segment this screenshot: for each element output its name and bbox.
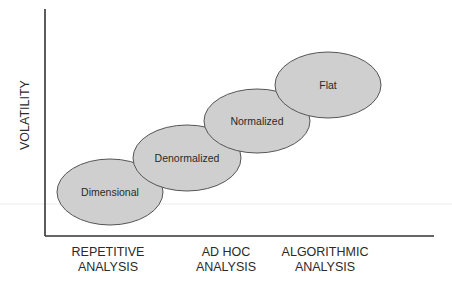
node-label: Dimensional (81, 186, 139, 198)
x-label-algorithmic: ALGORITHMIC ANALYSIS (282, 245, 369, 274)
y-axis-label: VOLATILITY (18, 79, 32, 150)
x-label-line1: REPETITIVE (72, 245, 145, 259)
x-label-line1: AD HOC (202, 245, 251, 259)
node-label: Normalized (230, 115, 283, 127)
volatility-diagram: VOLATILITY Dimensional Denormalized Norm… (0, 0, 452, 284)
node-flat: Flat (275, 52, 381, 118)
x-label-line2: ANALYSIS (78, 260, 138, 274)
x-label-line2: ANALYSIS (196, 260, 256, 274)
node-label: Flat (319, 79, 337, 91)
x-label-adhoc: AD HOC ANALYSIS (196, 245, 256, 274)
x-label-line1: ALGORITHMIC (282, 245, 369, 259)
x-label-line2: ANALYSIS (295, 260, 355, 274)
node-label: Denormalized (155, 152, 220, 164)
x-label-repetitive: REPETITIVE ANALYSIS (72, 245, 145, 274)
